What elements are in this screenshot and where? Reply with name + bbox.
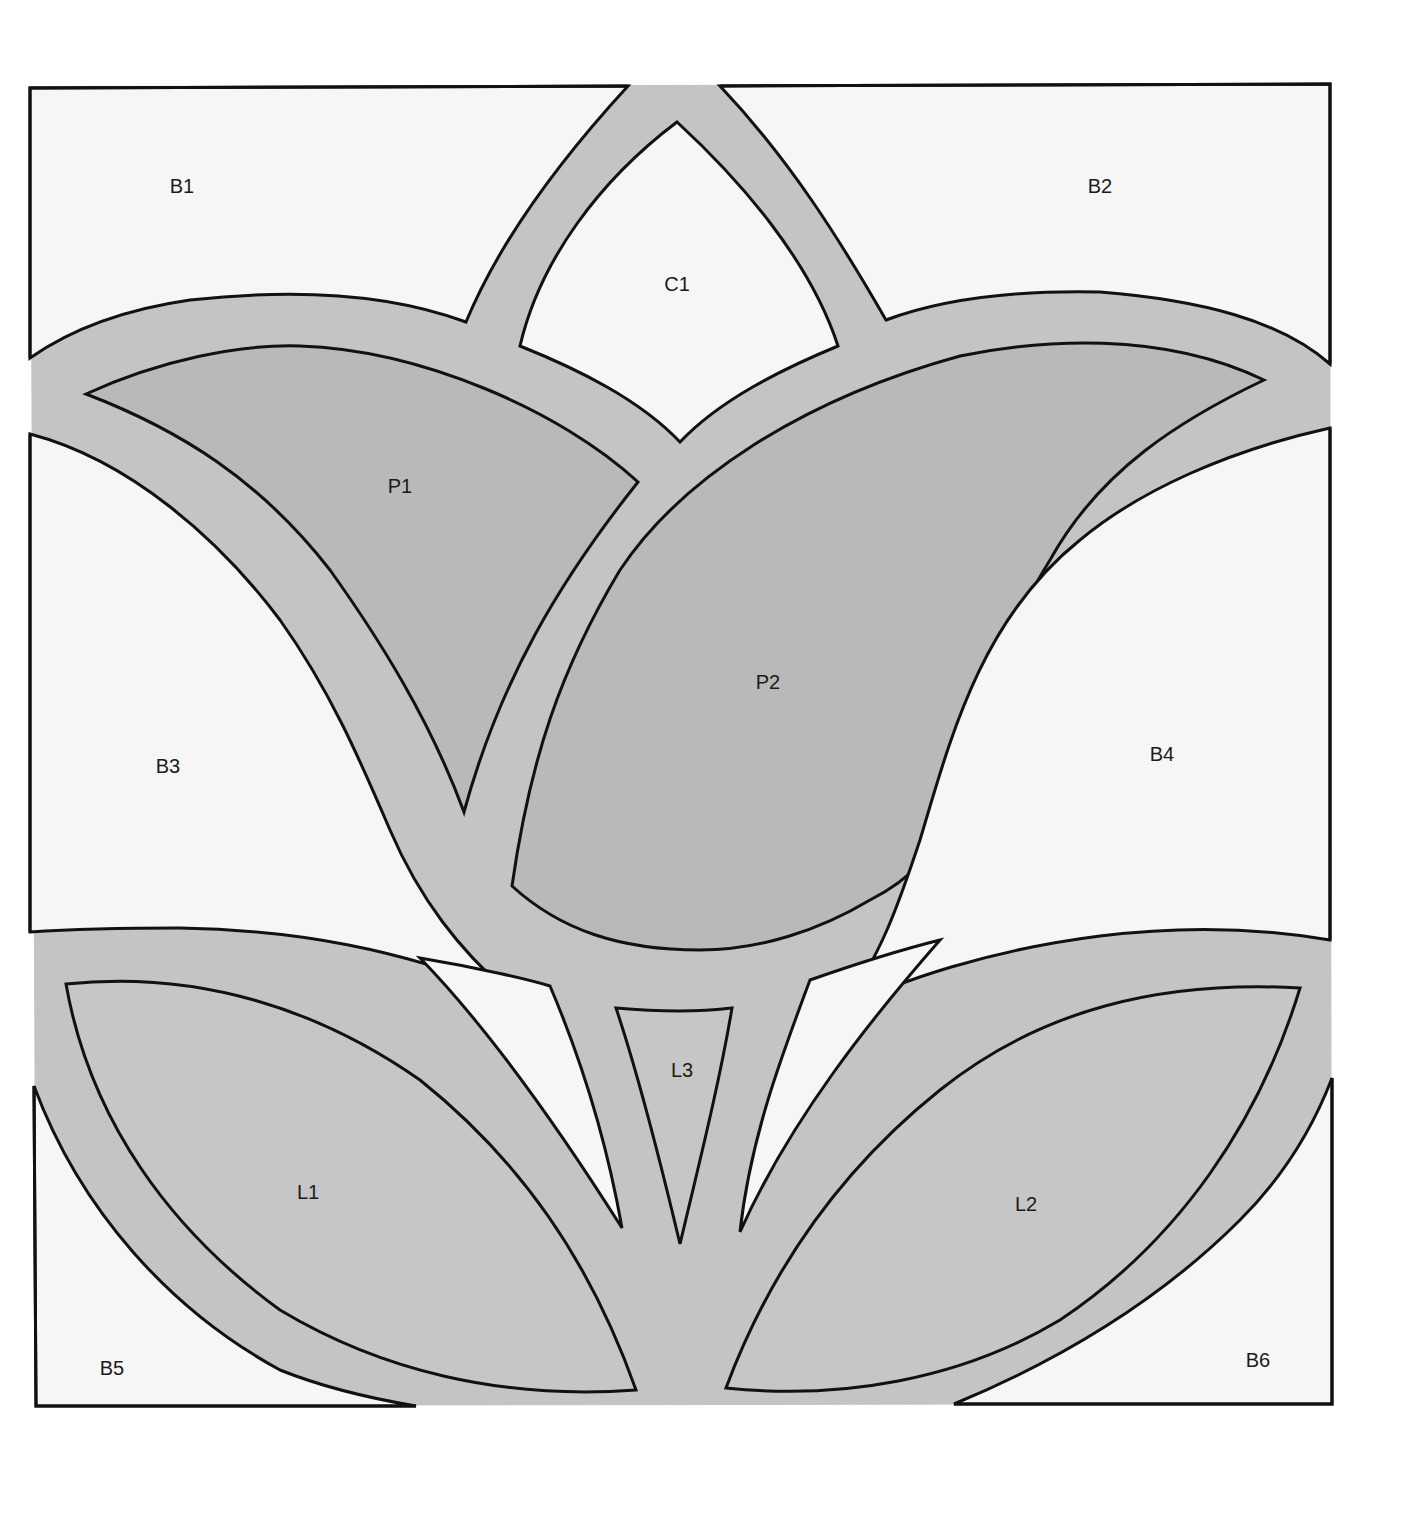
label-b3: B3 [156,755,180,777]
label-b6: B6 [1246,1349,1270,1371]
tulip-pattern-diagram: B1 B2 C1 P1 P2 B3 B4 L3 L1 L2 B5 B6 [0,0,1414,1514]
label-p1: P1 [388,475,412,497]
label-b4: B4 [1150,743,1174,765]
label-l3: L3 [671,1059,693,1081]
label-l1: L1 [297,1181,319,1203]
label-p2: P2 [756,671,780,693]
label-b1: B1 [170,175,194,197]
label-b2: B2 [1088,175,1112,197]
label-b5: B5 [100,1357,124,1379]
label-l2: L2 [1015,1193,1037,1215]
label-c1: C1 [664,273,690,295]
